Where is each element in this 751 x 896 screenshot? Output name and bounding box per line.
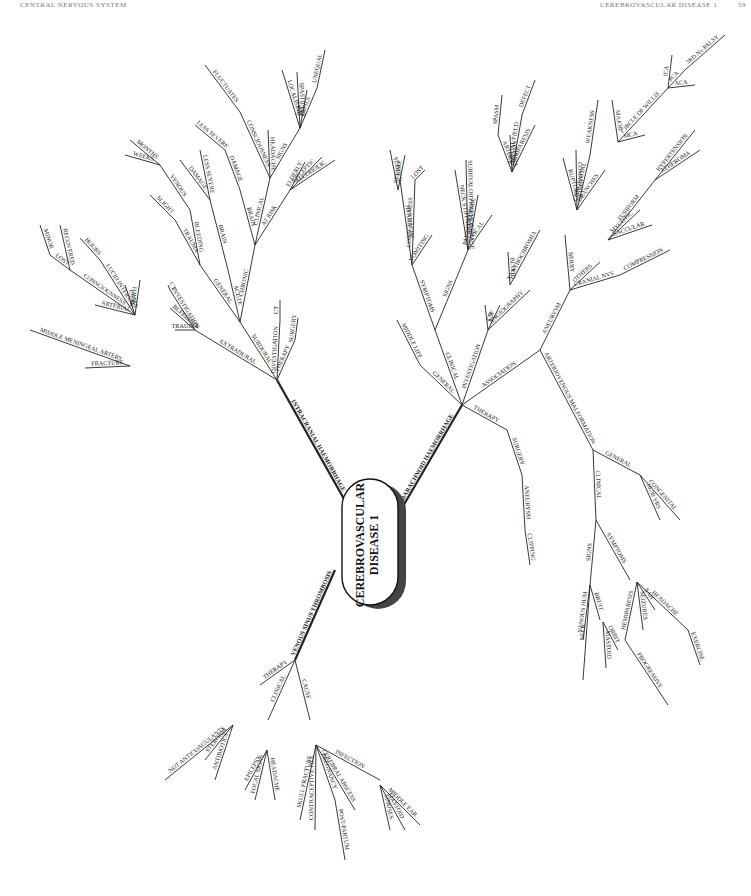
mind-map: INTRACRANIAL HAEMORRHAGESUBARACHNOID HAE… bbox=[0, 0, 751, 896]
node-label-ch-fluctuates: FLUCTUATES bbox=[212, 68, 241, 104]
node-label-sah-angiography: ANGIOGRAPHY bbox=[487, 288, 525, 325]
node-label-vst-contraceptive: CONTRACEPTIVE PILL bbox=[307, 754, 315, 820]
node-label-ich: INTRACRANIAL HAEMORRHAGE bbox=[290, 398, 347, 493]
branch-line-sd-general bbox=[200, 265, 240, 322]
node-label-sah-xanthochromia: XANTHOCHROMIA bbox=[505, 229, 538, 281]
mind-map-labels: INTRACRANIAL HAEMORRHAGESUBARACHNOID HAE… bbox=[39, 33, 720, 851]
node-label-sd-brain: BRAIN bbox=[218, 224, 230, 245]
node-label-sd-slight: SLIGHT bbox=[155, 194, 176, 215]
central-topic-line2: DISEASE 1 bbox=[367, 515, 381, 575]
node-label-vst-cause: CAUSE bbox=[301, 678, 313, 700]
node-label-an-compression: COMPRESSION bbox=[622, 245, 664, 271]
central-topic: CEREBROVASCULAR DISEASE 1 bbox=[342, 479, 406, 609]
node-label-ich-surgery: SURGERY bbox=[287, 313, 298, 343]
branch-line-cw-3rd bbox=[685, 35, 725, 70]
branch-line-sah-signs bbox=[435, 250, 468, 330]
node-label-sah-consciousness: CONSCIOUSNESS bbox=[405, 197, 414, 248]
node-label-avm-headache: HEADACHE bbox=[651, 589, 681, 618]
branch-line-avm-progressive bbox=[625, 640, 668, 705]
node-label-sah-clinical: CLINICAL bbox=[445, 351, 461, 381]
node-label-sah-avm: ARTERIOVENOUS MALFORMATION bbox=[543, 351, 598, 446]
node-label-sah: SUBARACHNOID HAEMORRHAGE bbox=[395, 412, 455, 508]
node-label-ch-less-severe: LESS SEVERE bbox=[196, 119, 231, 150]
node-label-sah-lost: LOST bbox=[409, 164, 425, 180]
node-label-avm-progressive: PROGRESSIVE bbox=[636, 651, 665, 690]
node-label-avm-hemiparesis: HEMIPARESIS bbox=[619, 589, 634, 630]
branch-line-avm-congenital bbox=[640, 475, 680, 520]
branch-line-ich bbox=[277, 380, 353, 515]
node-label-ch-damage: DAMAGE bbox=[229, 154, 245, 182]
branch-line-sah-angiography bbox=[488, 290, 530, 330]
node-label-mma: MIDDLE MENINGEAL ARTERY bbox=[39, 326, 124, 362]
node-label-sah-aneurysm2: ANEURYSM bbox=[524, 485, 533, 520]
node-label-avm-exercise: EXERCISE bbox=[690, 631, 706, 661]
node-label-sah-spasm: SPASM bbox=[491, 104, 500, 125]
node-label-be-circle: CIRCLE OF WILLIS bbox=[619, 89, 661, 134]
branch-line-vst bbox=[295, 570, 335, 660]
node-label-sah-aneurysm: ANEURYSM bbox=[540, 301, 562, 335]
branch-line-avm-symptoms bbox=[596, 520, 630, 580]
branch-line-sah bbox=[395, 405, 462, 520]
node-label-vst: VENOUS SINUS THROMBOSIS bbox=[289, 569, 333, 657]
node-label-ich-ct: CT bbox=[272, 306, 279, 314]
branch-line-sah-avm bbox=[540, 350, 593, 450]
mind-map-edges bbox=[30, 35, 725, 860]
node-label-sah-surgery: SURGERY bbox=[511, 436, 527, 466]
branch-line-sah-aneurysm bbox=[540, 290, 570, 350]
node-label-sah-association: ASSOCIATION bbox=[480, 359, 518, 388]
branch-line-ch-consciousness bbox=[240, 112, 270, 178]
node-label-cw-3rd: 3RD Nv PALSY bbox=[684, 33, 720, 66]
node-label-avm-bruit: BRUIT bbox=[593, 591, 605, 611]
node-label-sah-clipping: CLIPPING bbox=[527, 533, 538, 562]
node-label-avm-symptoms: SYMPTOMS bbox=[606, 531, 629, 564]
branch-line-ch-fluctuates bbox=[205, 65, 240, 112]
node-label-sd-general: GENERAL bbox=[213, 277, 235, 305]
node-label-sah-middle-life: MIDDLE LIFE bbox=[401, 322, 425, 360]
branch-line-vst-contraceptive bbox=[315, 745, 316, 830]
central-topic-line1: CEREBROVASCULAR bbox=[353, 482, 367, 607]
node-label-an-berry: BERRY bbox=[568, 252, 577, 273]
node-label-avm-signs: SIGNS bbox=[584, 542, 593, 561]
node-label-avm-clinical: CLINICAL bbox=[595, 470, 603, 499]
node-label-cw-aca: ACA bbox=[674, 78, 688, 86]
